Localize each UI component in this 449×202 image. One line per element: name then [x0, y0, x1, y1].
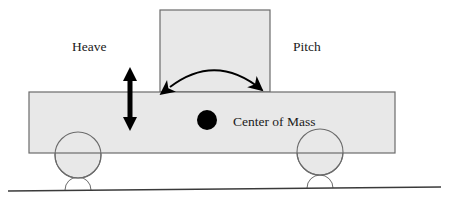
vehicle-dynamics-diagram: Heave Pitch Center of Mass — [0, 0, 449, 202]
contact-patch-rear-icon — [307, 175, 333, 188]
label-center-of-mass: Center of Mass — [233, 114, 315, 129]
center-of-mass-dot-icon — [197, 110, 217, 130]
label-pitch: Pitch — [293, 39, 321, 54]
ground-line — [8, 187, 441, 191]
contact-patch-front-icon — [65, 177, 91, 190]
label-heave: Heave — [72, 39, 106, 54]
cab-body — [160, 10, 270, 92]
diagram-canvas: Heave Pitch Center of Mass — [0, 0, 449, 202]
